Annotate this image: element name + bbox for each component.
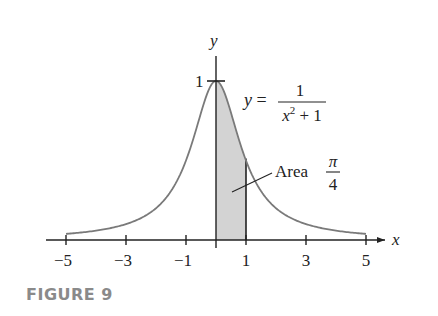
x-axis-arrow-icon [377,237,385,243]
annotation-text: Area [275,162,308,181]
y-axis-label: y [208,31,218,50]
figure-plot: −5−3−1135 x y 1 y = 1 x2 + 1 Area π 4 [0,0,438,316]
equation-numerator: 1 [296,81,305,100]
x-axis-label: x [391,230,400,249]
x-tick-label: 5 [362,251,371,270]
figure-caption: FIGURE 9 [26,285,113,304]
equation-lhs: y = [242,90,267,110]
x-tick-label: −3 [114,251,132,270]
annotation-fraction-den: 4 [329,175,338,194]
y-tick-label-1: 1 [195,72,204,91]
equation-label: y = 1 x2 + 1 [242,81,326,125]
annotation-fraction-num: π [329,152,338,171]
equation-denominator: x2 + 1 [281,104,322,125]
x-tick-label: 1 [242,251,251,270]
area-annotation: Area π 4 [232,152,340,194]
shaded-area-region [216,81,246,240]
x-tick-label: −5 [54,251,72,270]
x-tick-label: 3 [302,251,311,270]
x-tick-label: −1 [174,251,192,270]
